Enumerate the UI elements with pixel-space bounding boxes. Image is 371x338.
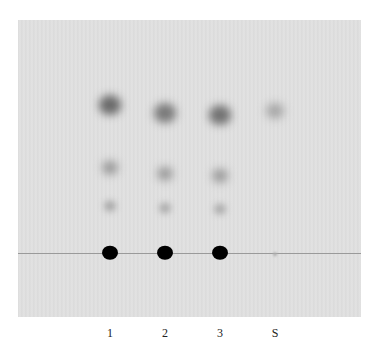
lane-label-1: 1 [107,326,113,338]
spot-lane-1 [104,201,116,212]
baseline [18,253,361,254]
spot-lane-s [273,252,277,256]
lane-label-s: S [272,326,279,338]
lane-label-3: 3 [217,326,223,338]
spot-lane-2 [154,103,176,123]
spot-lane-3 [214,204,226,215]
spot-lane-1 [99,95,121,115]
spot-lane-3 [209,105,231,125]
spot-lane-2 [159,203,171,214]
tlc-plate [18,20,361,317]
lane-label-2: 2 [162,326,168,338]
